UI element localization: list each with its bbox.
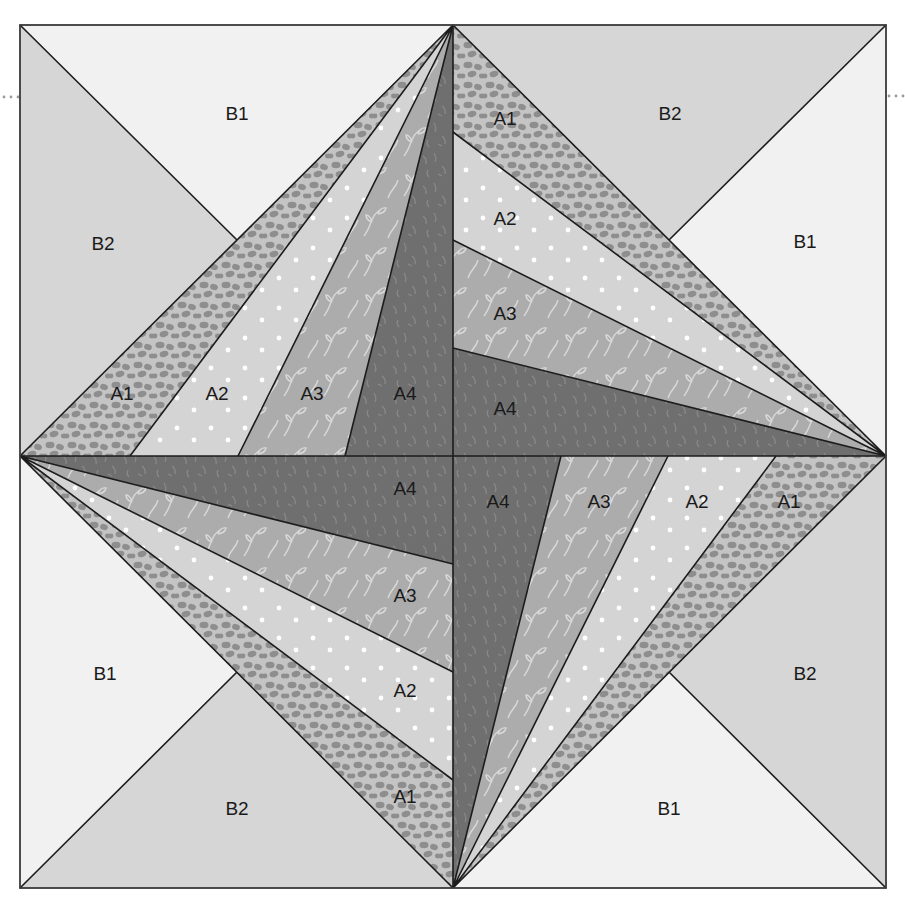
guide-dots-right bbox=[888, 95, 905, 98]
patch-label: B2 bbox=[91, 233, 114, 254]
guide-dots-left bbox=[3, 96, 20, 99]
quilt-block-diagram: B1 B2 A1 A2 A3 A4 A1 B2 A2 B1 A3 A4 A4 A… bbox=[0, 0, 905, 906]
patch-label: B1 bbox=[657, 798, 680, 819]
patch-label: A3 bbox=[393, 585, 416, 606]
patch-label: A1 bbox=[493, 108, 516, 129]
patch-label: B1 bbox=[93, 663, 116, 684]
patch-label: A4 bbox=[393, 383, 417, 404]
patch-label: A2 bbox=[205, 383, 228, 404]
patch-label: A1 bbox=[110, 383, 133, 404]
patch-label: A1 bbox=[393, 786, 416, 807]
quadrant-bottom-left bbox=[20, 456, 453, 888]
patch-label: A3 bbox=[300, 383, 323, 404]
patch-label: B2 bbox=[658, 103, 681, 124]
patch-label: A4 bbox=[486, 491, 510, 512]
patch-label: A2 bbox=[493, 208, 516, 229]
patch-label: A4 bbox=[493, 398, 517, 419]
patch-label: B2 bbox=[225, 798, 248, 819]
patch-label: A2 bbox=[685, 491, 708, 512]
quadrant-bottom-right bbox=[453, 456, 886, 888]
patch-label: A1 bbox=[777, 491, 800, 512]
patch-label: B1 bbox=[793, 231, 816, 252]
patch-label: B2 bbox=[793, 663, 816, 684]
patch-label: A3 bbox=[493, 303, 516, 324]
quadrant-top-right bbox=[453, 25, 886, 456]
patch-label: A4 bbox=[393, 478, 417, 499]
patch-label: B1 bbox=[225, 103, 248, 124]
patch-label: A2 bbox=[393, 680, 416, 701]
patch-label: A3 bbox=[587, 491, 610, 512]
quadrant-top-left bbox=[20, 25, 453, 456]
